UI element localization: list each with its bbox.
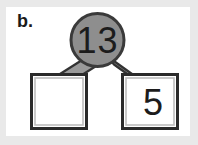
part-value-right: 5 <box>143 82 163 123</box>
part-box-left[interactable] <box>32 75 87 129</box>
frame-margin-top <box>0 0 198 7</box>
figure-canvas: b. 5 <box>6 7 190 136</box>
frame-margin-right <box>190 0 198 145</box>
whole-value: 13 <box>76 20 118 61</box>
part-box-right[interactable]: 5 <box>123 75 178 129</box>
number-bond-diagram: 5 13 <box>6 7 190 136</box>
figure-container: b. 5 <box>0 0 198 145</box>
frame-margin-bottom <box>0 136 198 145</box>
whole-circle[interactable]: 13 <box>71 14 124 67</box>
